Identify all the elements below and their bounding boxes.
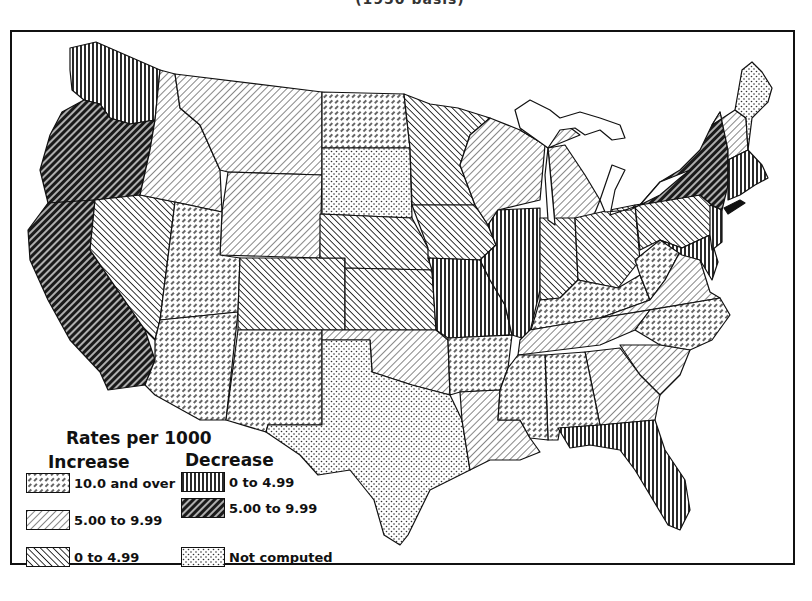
state-arizona: [145, 312, 238, 420]
vertical-lines-swatch-icon: [181, 472, 225, 492]
state-massachusetts-connecticut-rhode-island: [728, 150, 768, 200]
state-long-island: [724, 200, 745, 214]
legend-label: 5.00 to 9.99: [74, 513, 162, 528]
legend-item-not-computed: Not computed: [181, 547, 333, 567]
dark-diagonal-swatch-icon: [181, 498, 225, 518]
legend-item-increase-10-plus: 10.0 and over: [26, 473, 175, 493]
state-north-dakota: [322, 92, 410, 148]
legend-label: 0 to 4.99: [74, 550, 139, 565]
state-florida: [558, 420, 690, 530]
dashed-diagonal-swatch-icon: [26, 473, 70, 493]
legend-item-increase-0-4: 0 to 4.99: [26, 547, 139, 567]
legend-item-increase-5-9: 5.00 to 9.99: [26, 510, 162, 530]
legend-label: Not computed: [229, 550, 333, 565]
state-new-mexico: [226, 330, 322, 432]
legend-label: 5.00 to 9.99: [229, 501, 317, 516]
legend-title: Rates per 1000: [66, 428, 212, 448]
legend-decrease-heading: Decrease: [185, 450, 274, 470]
legend-item-decrease-0-4: 0 to 4.99: [181, 472, 294, 492]
state-new-jersey: [710, 205, 722, 250]
state-kansas: [345, 268, 436, 330]
state-wyoming: [220, 172, 322, 258]
legend-label: 0 to 4.99: [229, 475, 294, 490]
legend-item-decrease-5-9: 5.00 to 9.99: [181, 498, 317, 518]
state-colorado: [238, 258, 345, 330]
legend-increase-heading: Increase: [48, 452, 130, 472]
forward-diagonal-swatch-icon: [26, 510, 70, 530]
state-south-dakota: [322, 148, 412, 218]
back-diagonal-swatch-icon: [26, 547, 70, 567]
state-ohio: [575, 205, 640, 288]
legend-label: 10.0 and over: [74, 476, 175, 491]
dots-swatch-icon: [181, 547, 225, 567]
